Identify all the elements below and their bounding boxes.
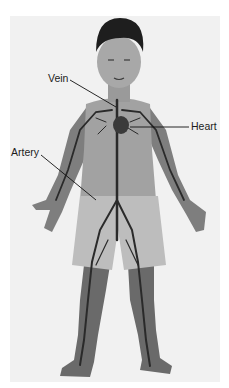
shorts	[72, 196, 166, 270]
face	[97, 36, 141, 88]
legs	[60, 265, 172, 377]
label-heart: Heart	[191, 121, 217, 132]
child-figure	[0, 0, 229, 388]
label-artery: Artery	[11, 147, 39, 158]
heart	[113, 116, 129, 134]
label-vein: Vein	[48, 73, 68, 84]
